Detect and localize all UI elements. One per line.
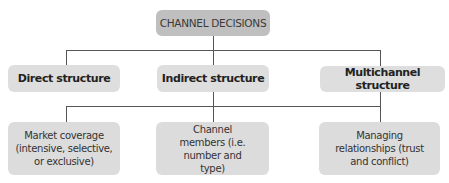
node-market-coverage: Market coverage (intensive, selective, o… — [8, 122, 120, 175]
node-label: Indirect structure — [162, 72, 264, 85]
node-indirect-structure: Indirect structure — [157, 65, 269, 92]
connector-multichannel-stem — [380, 92, 381, 122]
node-label: Market coverage (intensive, selective, o… — [12, 129, 116, 168]
connector-root-stem — [213, 36, 214, 50]
node-label: Multichannel structure — [320, 66, 445, 92]
connector-level2-bar — [66, 106, 381, 107]
connector-level1-bar — [66, 50, 381, 51]
root-node-label: CHANNEL DECISIONS — [160, 17, 267, 29]
root-node-channel-decisions: CHANNEL DECISIONS — [156, 10, 270, 36]
node-label: Managing relationships (trust and confli… — [323, 129, 436, 168]
node-direct-structure: Direct structure — [8, 65, 120, 92]
connector-to-market-coverage — [66, 106, 67, 122]
node-channel-members: Channel members (i.e. number and type) — [156, 122, 269, 175]
node-label: Direct structure — [18, 72, 111, 85]
connector-to-multichannel — [380, 50, 381, 66]
connector-to-indirect — [213, 50, 214, 65]
node-multichannel-structure: Multichannel structure — [320, 66, 445, 92]
connector-to-direct — [66, 50, 67, 65]
node-managing-relationships: Managing relationships (trust and confli… — [319, 122, 440, 175]
node-label: Channel members (i.e. number and type) — [160, 123, 265, 175]
